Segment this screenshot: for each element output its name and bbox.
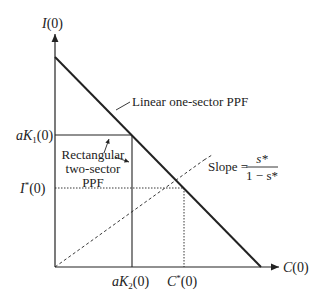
slope-numerator: s* (256, 151, 268, 166)
istar-label: I*(0) (19, 180, 46, 197)
rect-ppf-annotation-line1: Rectangular (62, 147, 125, 162)
slope-denominator: 1 − s* (246, 168, 278, 183)
ak2-label: aK2(0) (112, 274, 150, 291)
rect-ppf-annotation-line3: PPF (82, 175, 104, 190)
cstar-label: C*(0) (167, 273, 198, 290)
ppf-diagram: I(0) C(0) aK1(0) I*(0) aK2(0) C*(0) Line… (0, 0, 319, 302)
slope-label: Slope = (208, 159, 248, 174)
y-axis-label: I(0) (41, 16, 63, 32)
linear-ppf-leader (116, 102, 130, 110)
ak1-label: aK1(0) (16, 128, 54, 145)
rect-ppf-annotation-line2: two-sector (66, 161, 122, 176)
x-axis-label: C(0) (283, 260, 309, 276)
slope-ray (55, 160, 204, 267)
linear-ppf-annotation: Linear one-sector PPF (132, 94, 248, 109)
